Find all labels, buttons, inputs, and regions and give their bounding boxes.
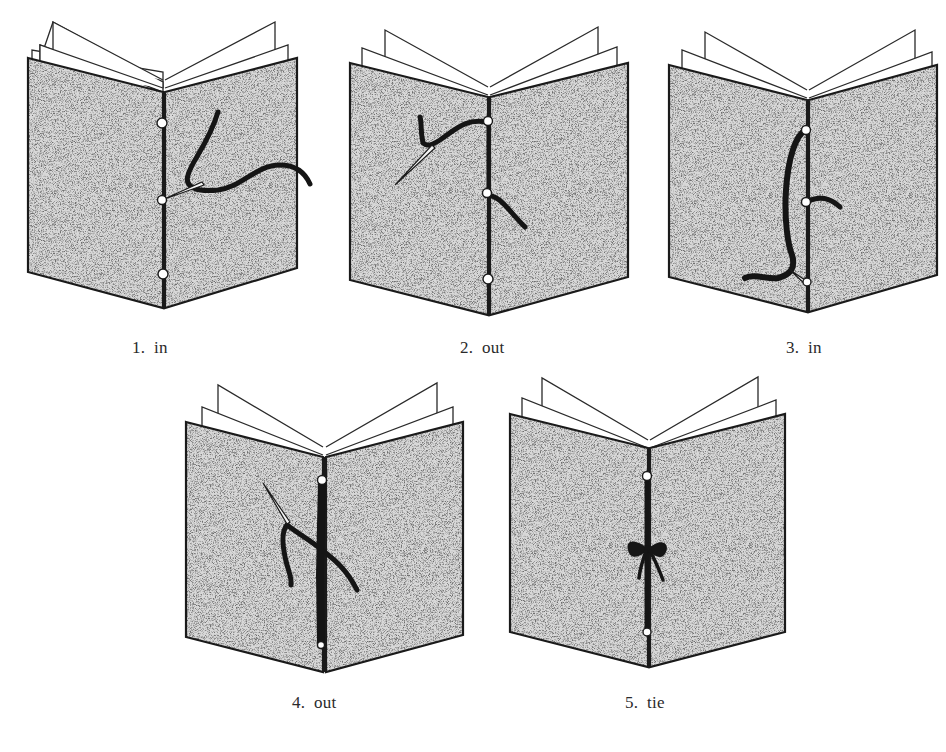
step-4-illustration <box>175 375 485 680</box>
open-book-icon <box>175 375 485 680</box>
step-4-caption: 4. out <box>292 693 336 713</box>
hole-middle <box>158 196 167 205</box>
step-5-caption: 5. tie <box>625 693 665 713</box>
right-cover <box>809 65 937 312</box>
step-2-illustration <box>340 15 640 325</box>
step-1-caption: 1. in <box>132 338 168 358</box>
open-book-icon <box>20 10 330 320</box>
left-cover <box>510 414 648 667</box>
right-cover <box>490 63 628 315</box>
open-book-icon <box>660 20 946 320</box>
step-5-illustration <box>500 370 800 675</box>
step-1-illustration <box>20 10 330 320</box>
right-cover <box>165 58 297 308</box>
hole-middle <box>802 198 811 207</box>
hole-bottom <box>643 628 651 636</box>
hole-bottom <box>318 642 325 649</box>
left-cover <box>186 422 323 672</box>
hole-top <box>157 118 167 128</box>
hole-middle <box>483 189 492 198</box>
hole-top <box>643 472 652 481</box>
hole-top <box>318 476 327 485</box>
open-book-icon <box>340 15 640 325</box>
open-book-icon <box>500 370 800 675</box>
hole-top <box>484 117 493 126</box>
hole-bottom <box>158 269 168 279</box>
left-cover <box>350 63 488 315</box>
step-3-illustration <box>660 20 946 320</box>
hole-bottom <box>803 278 811 286</box>
right-cover <box>650 414 785 667</box>
thread-spine <box>320 482 322 645</box>
step-2-caption: 2. out <box>460 338 504 358</box>
right-cover <box>326 422 463 672</box>
hole-top <box>802 126 811 135</box>
left-cover <box>28 58 163 308</box>
hole-bottom <box>483 274 493 284</box>
step-3-caption: 3. in <box>786 338 822 358</box>
